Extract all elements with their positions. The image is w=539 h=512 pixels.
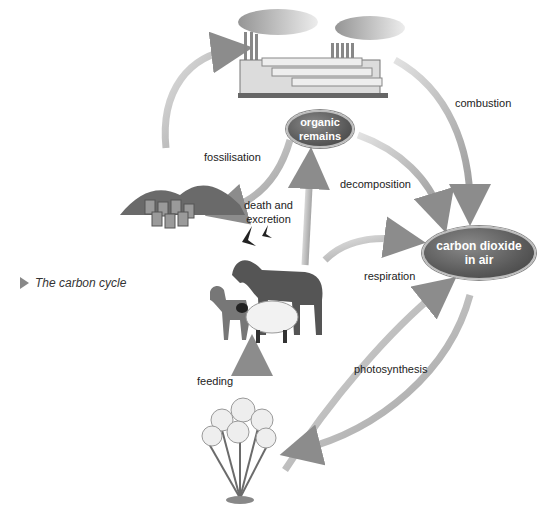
flowers-illustration	[202, 398, 276, 504]
label-decomposition: decomposition	[340, 177, 411, 191]
fossil-fuels-illustration	[120, 185, 245, 228]
label-combustion: combustion	[455, 96, 511, 110]
label-death-and-excretion: death and excretion	[244, 198, 293, 226]
label-fossilisation: fossilisation	[204, 150, 261, 164]
dog-illustration	[210, 286, 250, 340]
arrow-respiration	[325, 239, 405, 260]
figure-caption: The carbon cycle	[20, 276, 126, 290]
arrow-decomposition	[358, 135, 440, 213]
triangle-right-icon	[20, 277, 29, 289]
organic-remains-label-line1: organic	[299, 115, 341, 129]
arrow-fossil-to-factory	[165, 50, 232, 148]
carbon-dioxide-node: carbon dioxide in air	[422, 226, 536, 280]
carbon-dioxide-label-line2: in air	[436, 253, 521, 267]
factory-illustration	[238, 9, 405, 98]
label-respiration: respiration	[364, 269, 415, 283]
label-feeding: feeding	[197, 374, 233, 388]
caption-text: The carbon cycle	[35, 276, 126, 290]
label-death-line1: death and	[244, 198, 293, 212]
organic-remains-label-line2: remains	[299, 129, 341, 143]
arrow-death-excretion	[305, 168, 310, 265]
carbon-dioxide-label-line1: carbon dioxide	[436, 239, 521, 253]
label-death-line2: excretion	[244, 212, 293, 226]
organic-remains-node: organic remains	[286, 110, 354, 148]
label-photosynthesis: photosynthesis	[354, 362, 427, 376]
birds-illustration	[242, 225, 272, 246]
